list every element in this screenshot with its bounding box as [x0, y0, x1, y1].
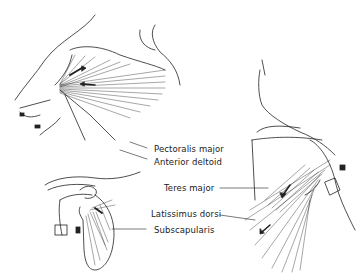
- scapula-drawing: [45, 172, 140, 270]
- anterior-arm-drawing: [15, 15, 180, 140]
- label-pectoralis-major: Pectoralis major: [154, 144, 224, 154]
- label-subscapularis: Subscapularis: [154, 225, 214, 235]
- label-teres-major: Teres major: [164, 183, 214, 193]
- posterior-shoulder-drawing: [245, 60, 355, 272]
- label-latissimus-dorsi: Latissimus dorsi: [151, 209, 221, 219]
- label-anterior-deltoid: Anterior deltoid: [154, 157, 222, 167]
